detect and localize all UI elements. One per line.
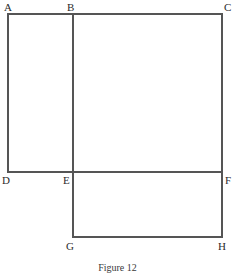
vertex-label-C: C: [224, 2, 231, 13]
vertex-label-G: G: [66, 241, 74, 252]
vertex-label-F: F: [225, 175, 231, 186]
segment-group: [8, 14, 222, 237]
vertex-label-A: A: [4, 2, 12, 13]
vertex-label-D: D: [2, 175, 10, 186]
vertex-label-H: H: [218, 241, 226, 252]
figure-caption: Figure 12: [0, 262, 235, 273]
vertex-label-E: E: [63, 175, 70, 186]
vertex-label-B: B: [67, 2, 74, 13]
